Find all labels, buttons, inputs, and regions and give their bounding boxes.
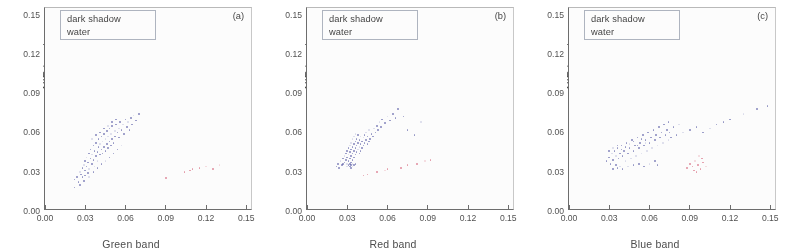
data-point-shadow [666, 129, 668, 131]
data-point-shadow [349, 163, 351, 165]
data-point-shadow [619, 166, 621, 168]
data-point-shadow [651, 147, 653, 149]
x-tick-mark [569, 205, 570, 209]
data-point-shadow [126, 126, 128, 128]
panel-tag: (a) [233, 11, 244, 21]
data-point-shadow [109, 128, 111, 130]
data-point-shadow [350, 149, 352, 151]
data-point-water [424, 160, 426, 162]
data-point-shadow [407, 129, 409, 131]
data-point-water [184, 171, 186, 173]
data-point-shadow [91, 138, 93, 140]
data-point-shadow [107, 136, 109, 138]
x-tick-label: 0.03 [77, 213, 94, 223]
data-point-water [367, 174, 369, 176]
x-tick-label: 0.06 [641, 213, 658, 223]
data-point-shadow [344, 162, 346, 164]
data-point-shadow [659, 137, 661, 139]
data-point-shadow [123, 133, 125, 135]
data-point-water [416, 163, 418, 165]
data-point-shadow [344, 155, 346, 157]
data-point-shadow [367, 136, 369, 138]
panel-tag: (c) [757, 11, 768, 21]
legend: dark shadowwater [584, 10, 680, 40]
data-point-shadow [86, 157, 88, 159]
x-tick-label: 0.15 [500, 213, 517, 223]
data-point-shadow [122, 124, 124, 126]
data-point-shadow [621, 149, 623, 151]
data-point-shadow [74, 179, 76, 181]
data-point-shadow [643, 166, 645, 168]
data-point-shadow [349, 158, 351, 160]
data-point-shadow [105, 150, 107, 152]
data-point-shadow [621, 145, 623, 147]
data-point-shadow [630, 158, 632, 160]
data-point-shadow [111, 138, 113, 140]
data-point-shadow [355, 141, 357, 143]
data-point-shadow [352, 146, 354, 148]
data-point-shadow [95, 134, 97, 136]
x-tick-mark [246, 205, 247, 209]
data-point-shadow [627, 153, 629, 155]
data-point-shadow [654, 160, 656, 162]
data-point-shadow [633, 164, 635, 166]
data-point-shadow [345, 153, 347, 155]
data-point-shadow [668, 121, 670, 123]
data-point-water [400, 167, 402, 169]
x-tick-mark [125, 205, 126, 209]
data-point-shadow [95, 142, 97, 144]
data-point-shadow [619, 153, 621, 155]
data-point-shadow [614, 150, 616, 152]
data-point-shadow [657, 164, 659, 166]
data-point-water [430, 159, 432, 161]
data-point-shadow [676, 134, 678, 136]
x-tick-label: 0.03 [339, 213, 356, 223]
data-point-shadow [337, 163, 339, 165]
x-tick-mark [609, 205, 610, 209]
legend-item-water: water [329, 26, 417, 39]
data-point-shadow [642, 134, 644, 136]
data-point-shadow [611, 153, 613, 155]
data-point-shadow [117, 132, 119, 134]
data-point-shadow [82, 167, 84, 169]
data-point-shadow [353, 157, 355, 159]
data-point-shadow [709, 128, 711, 130]
data-point-shadow [110, 133, 112, 135]
data-point-water [696, 171, 698, 173]
data-point-shadow [109, 141, 111, 143]
data-point-shadow [716, 124, 718, 126]
data-point-shadow [349, 145, 351, 147]
data-point-shadow [359, 153, 361, 155]
x-tick-label: 0.06 [379, 213, 396, 223]
data-point-shadow [121, 145, 123, 147]
data-point-shadow [663, 124, 665, 126]
x-tick-mark [730, 205, 731, 209]
data-point-shadow [371, 133, 373, 135]
data-point-shadow [649, 142, 651, 144]
data-point-shadow [107, 125, 109, 127]
data-point-water [694, 160, 696, 162]
data-point-shadow [379, 121, 381, 123]
data-point-shadow [121, 129, 123, 131]
data-point-water [376, 171, 378, 173]
data-point-shadow [363, 145, 365, 147]
data-point-shadow [102, 153, 104, 155]
data-point-shadow [743, 113, 745, 115]
data-point-water [165, 177, 167, 179]
data-point-shadow [645, 142, 647, 144]
data-point-shadow [617, 145, 619, 147]
data-point-shadow [627, 166, 629, 168]
data-point-shadow [355, 154, 357, 156]
data-point-shadow [101, 163, 103, 165]
data-point-shadow [729, 119, 731, 121]
data-point-shadow [615, 164, 617, 166]
data-point-shadow [106, 143, 108, 145]
x-tick-mark [649, 205, 650, 209]
x-tick-mark [165, 205, 166, 209]
data-point-shadow [356, 138, 358, 140]
data-point-shadow [360, 143, 362, 145]
data-point-shadow [395, 117, 397, 119]
data-point-shadow [352, 163, 354, 165]
data-point-shadow [606, 160, 608, 162]
data-point-shadow [76, 176, 78, 178]
